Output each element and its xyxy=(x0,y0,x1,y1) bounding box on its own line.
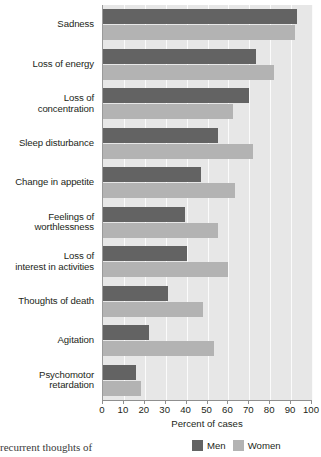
category-label-line: Agitation xyxy=(58,334,94,345)
category-label-line: Loss of xyxy=(64,92,94,103)
bar-men-8 xyxy=(103,325,149,340)
category-label-2: Loss ofconcentration xyxy=(0,93,94,114)
category-label-line: Change in appetite xyxy=(15,176,94,187)
category-label-line: Loss of xyxy=(64,250,94,261)
bar-women-9 xyxy=(103,381,141,396)
category-label-line: Sadness xyxy=(57,18,94,29)
legend-swatch-women-icon xyxy=(233,440,244,451)
category-axis-labels: SadnessLoss of energyLoss ofconcentratio… xyxy=(0,5,98,400)
page-body-text-fragment: recurrent thoughts of xyxy=(0,441,180,454)
legend-item-women[interactable]: Women xyxy=(233,440,281,451)
category-label-3: Sleep disturbance xyxy=(0,138,94,149)
gridline-100 xyxy=(312,5,313,400)
bar-women-4 xyxy=(103,183,235,198)
plot-area xyxy=(102,5,312,400)
category-label-7: Thoughts of death xyxy=(0,296,94,307)
bar-men-7 xyxy=(103,286,168,301)
bar-men-5 xyxy=(103,207,185,222)
category-label-line: interest in activities xyxy=(15,261,94,272)
bar-women-3 xyxy=(103,144,253,159)
bar-women-2 xyxy=(103,104,233,119)
bar-women-7 xyxy=(103,302,203,317)
bar-women-6 xyxy=(103,262,228,277)
category-label-6: Loss ofinterest in activities xyxy=(0,251,94,272)
bar-men-6 xyxy=(103,246,187,261)
x-tick-label-100: 100 xyxy=(296,404,321,415)
legend-label-women: Women xyxy=(248,440,281,451)
bar-men-1 xyxy=(103,49,256,64)
bar-women-0 xyxy=(103,25,295,40)
legend-item-men[interactable]: Men xyxy=(192,440,226,451)
category-label-4: Change in appetite xyxy=(0,177,94,188)
category-label-1: Loss of energy xyxy=(0,59,94,70)
bar-women-8 xyxy=(103,341,214,356)
legend: Men Women xyxy=(192,440,281,451)
category-label-9: Psychomotorretardation xyxy=(0,370,94,391)
category-label-line: retardation xyxy=(49,379,94,390)
bar-men-3 xyxy=(103,128,218,143)
category-label-line: Thoughts of death xyxy=(18,295,94,306)
category-label-line: worthlessness xyxy=(35,221,95,232)
legend-label-men: Men xyxy=(207,440,226,451)
category-label-line: Feelings of xyxy=(48,211,94,222)
depression-symptoms-bar-chart: SadnessLoss of energyLoss ofconcentratio… xyxy=(0,0,321,457)
category-label-line: concentration xyxy=(38,103,94,114)
category-label-line: Psychomotor xyxy=(39,369,94,380)
category-label-5: Feelings ofworthlessness xyxy=(0,212,94,233)
x-axis-title: Percent of cases xyxy=(102,418,312,429)
gridline-90 xyxy=(291,5,292,400)
x-axis-ticks: 0102030405060708090100 xyxy=(0,401,321,415)
category-label-0: Sadness xyxy=(0,19,94,30)
bar-men-0 xyxy=(103,9,297,24)
bar-men-9 xyxy=(103,365,136,380)
category-label-8: Agitation xyxy=(0,335,94,346)
legend-swatch-men-icon xyxy=(192,440,203,451)
bar-women-1 xyxy=(103,65,274,80)
bar-men-4 xyxy=(103,167,201,182)
category-label-line: Sleep disturbance xyxy=(19,137,94,148)
category-label-line: Loss of energy xyxy=(32,58,94,69)
bar-women-5 xyxy=(103,223,218,238)
bar-men-2 xyxy=(103,88,249,103)
